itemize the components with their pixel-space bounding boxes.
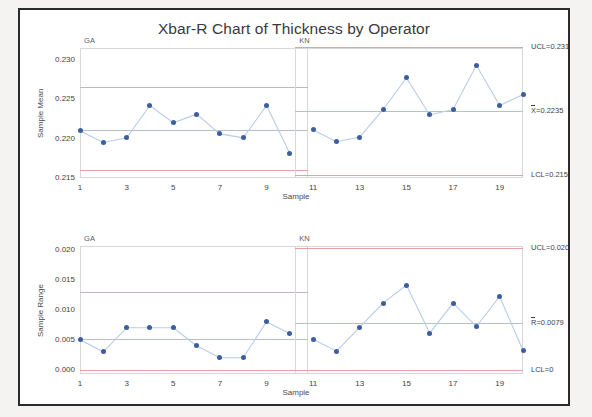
xbar-x-axis-label: Sample (20, 192, 570, 201)
stage-label-kn: KN (299, 234, 310, 243)
chart-frame: Xbar-R Chart of Thickness by Operator Sa… (18, 8, 570, 406)
y-axis-tick: 0.220 (35, 134, 75, 143)
stage-label-ga: GA (84, 234, 95, 243)
y-axis-tick: 0.000 (35, 365, 75, 374)
y-axis-tick: 0.215 (35, 173, 75, 182)
y-axis-tick: 0.015 (35, 275, 75, 284)
x-axis-tick: 5 (163, 183, 183, 192)
range-chart: Sample Range GAKN Sample 0.0000.0050.010… (20, 238, 570, 406)
y-axis-tick: 0.005 (35, 335, 75, 344)
control-limit-label: X=0.2235 (531, 106, 563, 115)
data-point (194, 112, 199, 117)
x-axis-tick: 9 (257, 183, 277, 192)
stage-label-kn: KN (299, 36, 310, 45)
data-point (241, 355, 246, 360)
data-point (474, 63, 479, 68)
x-axis-tick: 1 (70, 183, 90, 192)
x-axis-tick: 11 (303, 379, 323, 388)
data-point (451, 107, 456, 112)
x-axis-tick: 19 (490, 379, 510, 388)
control-limit-value: =0.2235 (536, 106, 563, 115)
x-axis-tick: 19 (490, 183, 510, 192)
data-point (474, 324, 479, 329)
data-point (451, 301, 456, 306)
x-axis-tick: 15 (396, 183, 416, 192)
control-limit-label: R=0.0079 (531, 318, 564, 327)
y-axis-tick: 0.010 (35, 305, 75, 314)
control-limit-label: LCL=0.21542 (531, 170, 570, 179)
data-point (357, 325, 362, 330)
data-point (521, 92, 526, 97)
data-point (381, 107, 386, 112)
x-axis-tick: 17 (443, 379, 463, 388)
xbar-plot-area: GAKN (80, 48, 523, 178)
x-axis-tick: 7 (210, 183, 230, 192)
data-point (311, 337, 316, 342)
data-point (264, 103, 269, 108)
page-title: Xbar-R Chart of Thickness by Operator (20, 20, 568, 38)
range-plot-area: GAKN (80, 246, 523, 374)
y-axis-tick: 0.225 (35, 94, 75, 103)
control-limit-label: LCL=0 (531, 365, 553, 374)
control-limit-label: UCL=0.23158 (531, 42, 570, 51)
x-axis-tick: 3 (117, 379, 137, 388)
series-line (80, 246, 523, 374)
control-limit-value: =0.0079 (536, 318, 563, 327)
data-point (521, 348, 526, 353)
overbar-symbol: X (531, 106, 536, 115)
data-point (381, 301, 386, 306)
data-point (334, 349, 339, 354)
data-point (78, 128, 83, 133)
x-axis-tick: 15 (396, 379, 416, 388)
control-limit-label: UCL=0.02034 (531, 243, 570, 252)
x-axis-tick: 3 (117, 183, 137, 192)
x-axis-tick: 11 (303, 183, 323, 192)
x-axis-tick: 17 (443, 183, 463, 192)
stage-label-ga: GA (84, 36, 95, 45)
data-point (404, 283, 409, 288)
x-axis-tick: 7 (210, 379, 230, 388)
x-axis-tick: 9 (257, 379, 277, 388)
x-axis-tick: 13 (350, 183, 370, 192)
x-axis-tick: 5 (163, 379, 183, 388)
data-point (427, 331, 432, 336)
data-point (101, 140, 106, 145)
overbar-symbol: R (531, 318, 536, 327)
x-axis-tick: 1 (70, 379, 90, 388)
data-point (171, 325, 176, 330)
y-axis-tick: 0.020 (35, 245, 75, 254)
series-line (80, 48, 523, 178)
xbar-chart: Sample Mean GAKN Sample 0.2150.2200.2250… (20, 40, 570, 212)
data-point (78, 337, 83, 342)
x-axis-tick: 13 (350, 379, 370, 388)
y-axis-tick: 0.230 (35, 55, 75, 64)
data-point (357, 135, 362, 140)
range-x-axis-label: Sample (20, 388, 570, 397)
